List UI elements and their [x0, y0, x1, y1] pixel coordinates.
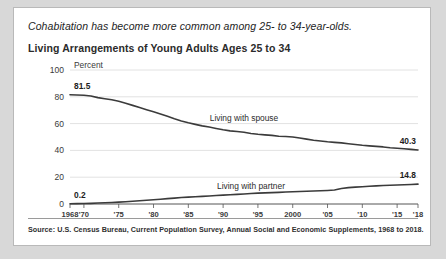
chart-card: Cohabitation has become more common amon…: [13, 7, 431, 246]
x-tick-label: '90: [218, 210, 228, 218]
x-tick-label: '05: [322, 210, 333, 218]
y-tick-label: 100: [50, 65, 64, 75]
x-tick-label: '75: [114, 210, 125, 218]
gridlines: [70, 70, 418, 177]
y-axis-ticks: 020406080100: [50, 65, 64, 209]
x-tick-label: '85: [183, 210, 194, 218]
y-tick-label: 40: [55, 145, 65, 155]
x-tick-label: 2000: [284, 210, 301, 218]
value-annotation: 0.2: [74, 190, 86, 200]
y-tick-label: 80: [55, 92, 65, 102]
source-note: Source: U.S. Census Bureau, Current Popu…: [28, 225, 424, 234]
value-annotation: 14.8: [400, 170, 417, 180]
x-tick-label: '10: [357, 210, 367, 218]
x-tick-label: '70: [79, 210, 89, 218]
series-label-spouse: Living with spouse: [210, 113, 279, 123]
y-tick-label: 20: [55, 172, 65, 182]
value-annotation: 40.3: [400, 136, 417, 146]
value-annotation: 81.5: [74, 81, 91, 91]
y-tick-label: 60: [55, 119, 65, 129]
x-axis-ticks: 1968'70'75'80'85'90'952000'05'10'15'18: [62, 204, 424, 218]
x-tick-label: 1968: [62, 210, 79, 218]
y-axis-unit-label: Percent: [74, 60, 104, 70]
series-label-partner: Living with partner: [217, 181, 285, 191]
x-tick-label: '18: [413, 210, 423, 218]
line-chart-svg: 020406080100 1968'70'75'80'85'90'952000'…: [14, 60, 432, 218]
source-divider: [28, 218, 418, 219]
chart-headline: Cohabitation has become more common amon…: [28, 20, 352, 32]
x-tick-label: '15: [392, 210, 403, 218]
chart-plot-area: 020406080100 1968'70'75'80'85'90'952000'…: [14, 60, 432, 218]
x-tick-label: '95: [253, 210, 264, 218]
chart-title: Living Arrangements of Young Adults Ages…: [28, 42, 290, 54]
x-tick-label: '80: [148, 210, 158, 218]
y-tick-label: 0: [59, 199, 64, 209]
